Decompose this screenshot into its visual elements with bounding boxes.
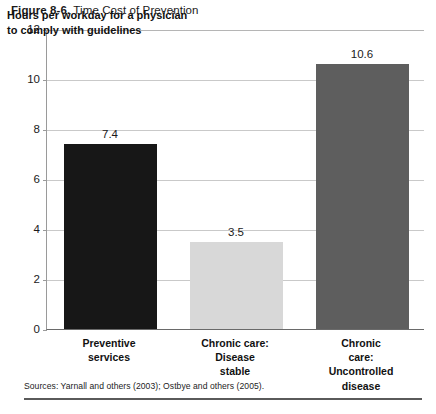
bar-value-label: 7.4	[102, 128, 118, 140]
plot-area: 7.43.510.6	[46, 30, 424, 330]
y-axis-tick-label: 6	[0, 174, 40, 186]
y-axis-tick-label: 8	[0, 124, 40, 136]
y-axis-tick-label: 2	[0, 274, 40, 286]
bar	[190, 242, 283, 330]
y-axis-tick-label: 4	[0, 224, 40, 236]
source-note: Sources: Yarnall and others (2003); Ostb…	[24, 381, 264, 391]
x-axis-category-label: Chronic care: Disease stable	[201, 336, 269, 379]
y-axis-tick	[43, 80, 47, 81]
y-axis-tick	[43, 230, 47, 231]
y-axis-tick-label: 10	[0, 74, 40, 86]
y-axis-tick	[43, 280, 47, 281]
y-axis-tick	[43, 180, 47, 181]
x-axis-category-label: Preventive services	[82, 336, 135, 364]
y-axis: 024681012	[0, 30, 40, 330]
y-axis-tick	[43, 130, 47, 131]
bar-value-label: 10.6	[351, 48, 373, 60]
chart-annotation: Hours per workday for a physician to com…	[7, 8, 187, 38]
bar-value-label: 3.5	[228, 226, 244, 238]
y-axis-tick	[43, 330, 47, 331]
bar	[316, 64, 409, 329]
bar	[64, 144, 157, 329]
y-axis-tick-label: 0	[0, 324, 40, 336]
bottom-divider	[24, 398, 422, 400]
x-axis-category-label: Chronic care: Uncontrolled disease	[329, 336, 394, 393]
x-axis-labels: Preventive servicesChronic care: Disease…	[46, 336, 424, 386]
